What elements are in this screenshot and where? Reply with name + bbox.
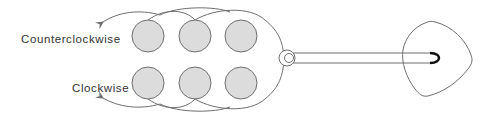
rod [293,53,439,63]
label-counterclockwise: Counterclockwise [21,33,121,45]
disc-row-bottom [132,67,257,99]
disc [179,67,211,99]
clockwise-arrow-icon [103,98,160,107]
label-clockwise: Clockwise [72,82,129,94]
disc [132,20,164,52]
disc [225,67,257,99]
diagram-canvas: Counterclockwise Clockwise [0,0,488,114]
pivot-icon [279,50,295,66]
loop-path [148,8,284,111]
disc [132,67,164,99]
pick-shape [403,21,472,96]
disc-row-top [132,20,257,52]
disc [179,20,211,52]
disc [225,20,257,52]
rod-cap [430,53,439,63]
